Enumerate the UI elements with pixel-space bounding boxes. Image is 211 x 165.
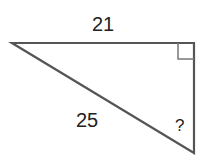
right-triangle	[12, 43, 194, 153]
right-angle-marker	[178, 43, 194, 59]
top-side-label: 21	[92, 14, 114, 34]
hypotenuse-label: 25	[76, 110, 98, 130]
unknown-side-label: ?	[175, 117, 184, 134]
